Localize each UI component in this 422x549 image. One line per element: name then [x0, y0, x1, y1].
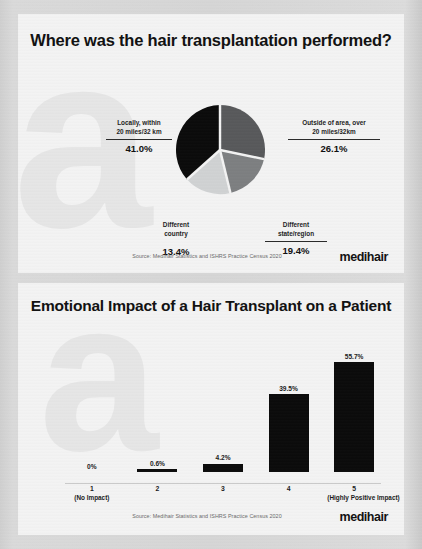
pie-callout-state-region-rule	[265, 241, 327, 242]
pie-callout-locally-value: 41.0%	[97, 143, 181, 154]
bar-chart-title: Emotional Impact of a Hair Transplant on…	[19, 284, 403, 316]
bar-chart-panel: a Emotional Impact of a Hair Transplant …	[19, 284, 403, 534]
bar-xlabel-number-5: 5	[327, 484, 381, 494]
pie-callout-outside-label: Outside of area, over 20 miles/32km	[281, 119, 387, 137]
bar-xlabel-sub-5: (Highly Positive Impact)	[327, 494, 381, 503]
bar-xlabel-number-2: 2	[131, 484, 185, 494]
medihair-logo-bottom: medihair	[340, 510, 389, 524]
bar-4	[269, 394, 309, 472]
pie-callout-country: Different country 13.4%	[135, 221, 217, 257]
pie-callout-locally-label: Locally, within 20 miles/32 km	[97, 119, 181, 137]
pie-chart-area: Locally, within 20 miles/32 km 41.0% Out…	[19, 15, 403, 272]
bar-value-label-2: 0.6%	[150, 460, 165, 467]
bar-value-label-3: 4.2%	[215, 454, 230, 461]
bar-column-4: 39.5%	[262, 344, 316, 472]
pie-graphic	[173, 103, 267, 197]
pie-callout-outside: Outside of area, over 20 miles/32km 26.1…	[281, 119, 387, 154]
bar-value-label-4: 39.5%	[279, 385, 298, 392]
pie-callout-locally: Locally, within 20 miles/32 km 41.0%	[97, 119, 181, 154]
pie-callout-locally-rule	[106, 139, 172, 140]
bar-chart-area: 0%0.6%4.2%39.5%55.7%	[65, 344, 381, 484]
bar-2	[137, 469, 177, 472]
bar-value-label-1: 0%	[87, 463, 97, 470]
pie-callout-outside-rule	[288, 139, 380, 140]
bar-xlabel-number-3: 3	[196, 484, 250, 494]
pie-callout-country-label: Different country	[135, 221, 217, 239]
infographic-page: a Where was the hair transplantation per…	[0, 0, 422, 549]
bar-column-2: 0.6%	[131, 344, 185, 472]
pie-svg	[173, 103, 267, 197]
pie-callout-state-region: Different state/region 19.4%	[253, 221, 339, 256]
pie-callout-state-region-label: Different state/region	[253, 221, 339, 239]
bar-5	[334, 362, 374, 472]
medihair-logo-top: medihair	[340, 250, 389, 264]
bar-3	[203, 464, 243, 472]
bar-column-1: 0%	[65, 344, 119, 472]
pie-callout-outside-value: 26.1%	[281, 143, 387, 154]
pie-chart-panel: a Where was the hair transplantation per…	[19, 15, 403, 272]
bar-xlabel-number-4: 4	[262, 484, 316, 494]
bar-column-3: 4.2%	[196, 344, 250, 472]
bar-column-5: 55.7%	[327, 344, 381, 472]
bar-value-label-5: 55.7%	[345, 353, 364, 360]
bar-xlabel-sub-1: (No Impact)	[65, 494, 119, 503]
bar-plot: 0%0.6%4.2%39.5%55.7%	[65, 344, 381, 472]
bar-xlabel-number-1: 1	[65, 484, 119, 494]
